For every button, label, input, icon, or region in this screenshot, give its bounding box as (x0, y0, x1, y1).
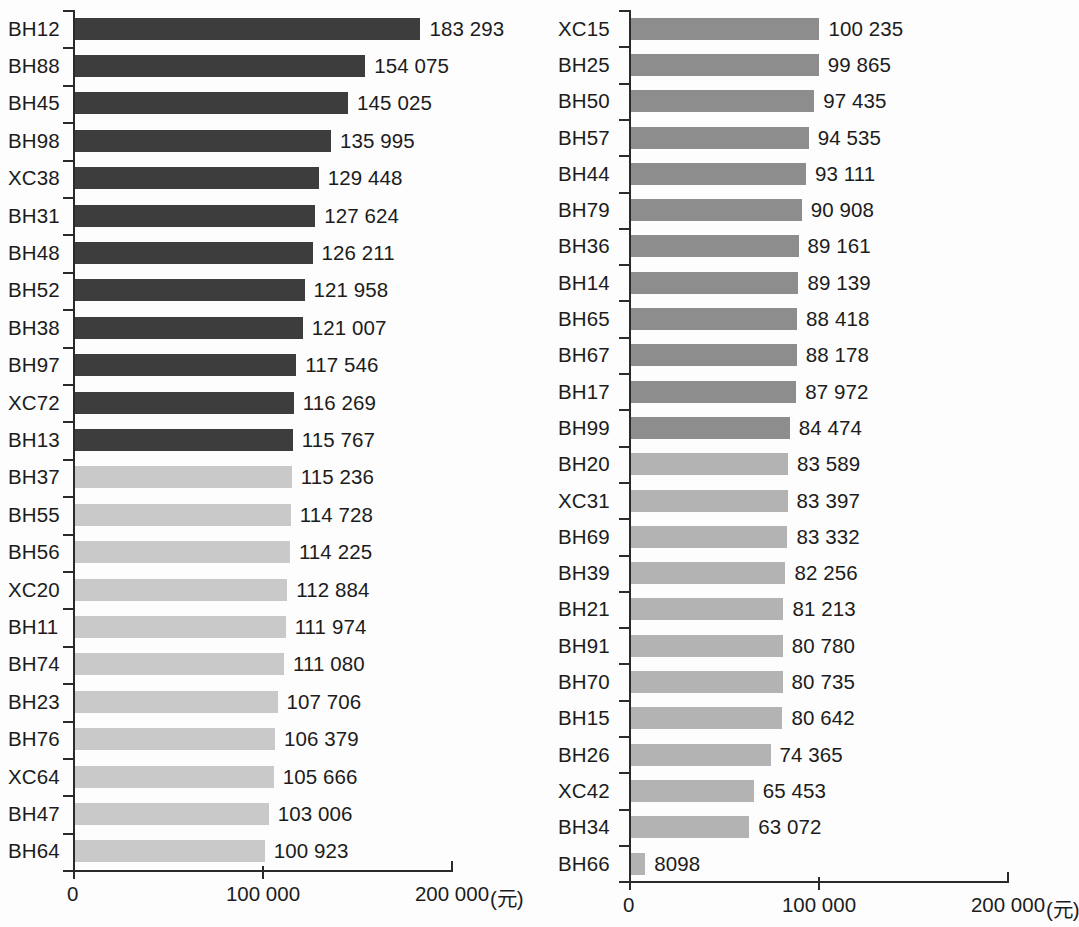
y-axis-line (629, 10, 631, 881)
category-label: BH44 (558, 162, 610, 186)
bar (630, 453, 788, 475)
bar (630, 816, 749, 838)
category-label: BH36 (558, 234, 610, 258)
category-label: BH17 (558, 380, 610, 404)
bar-value-label: 89 161 (808, 234, 871, 258)
bar (630, 381, 796, 403)
bar (74, 242, 313, 264)
category-label: BH12 (8, 17, 60, 41)
bar-value-label: 121 958 (314, 278, 389, 302)
x-axis-tick-label: 200 000 (971, 893, 1045, 917)
bar-value-label: 100 923 (274, 839, 349, 863)
bar-value-label: 115 767 (302, 428, 375, 452)
x-axis-unit-label: (元) (1046, 893, 1079, 923)
bar-row: BH88154 075 (0, 47, 540, 84)
bar (630, 163, 806, 185)
category-label: XC64 (8, 765, 60, 789)
bar-row: BH7990 908 (540, 192, 1079, 229)
bar-row: BH11111 974 (0, 608, 540, 645)
category-label: XC15 (558, 17, 610, 41)
bar (74, 728, 275, 750)
category-label: BH88 (8, 54, 60, 78)
bar (630, 490, 788, 512)
bar-row: BH3689 161 (540, 228, 1079, 265)
category-label: BH74 (8, 652, 60, 676)
bar-value-label: 112 884 (296, 578, 369, 602)
bar (74, 541, 290, 563)
bar (74, 616, 286, 638)
bar-value-label: 83 397 (797, 489, 860, 513)
bar-value-label: 8098 (654, 852, 700, 876)
category-label: BH66 (558, 852, 610, 876)
x-axis-tick (262, 866, 264, 879)
bar-value-label: 97 435 (823, 89, 886, 113)
category-label: BH57 (558, 126, 610, 150)
bar-value-label: 115 236 (301, 465, 374, 489)
bar-row: BH6983 332 (540, 518, 1079, 555)
x-axis-tick-label: 100 000 (226, 882, 300, 906)
bar (74, 317, 303, 339)
bar-row: BH13115 767 (0, 421, 540, 458)
category-label: BH50 (558, 89, 610, 113)
bar (74, 579, 287, 601)
category-label: BH25 (558, 53, 610, 77)
x-axis-tick-label: 200 000 (415, 882, 489, 906)
x-axis-tick (629, 877, 631, 890)
category-label: BH39 (558, 561, 610, 585)
bar-value-label: 126 211 (322, 241, 395, 265)
bar (630, 90, 814, 112)
bar-row: BH38121 007 (0, 309, 540, 346)
bar-value-label: 94 535 (818, 126, 881, 150)
x-axis-tick (818, 877, 820, 890)
bar-row: BH1787 972 (540, 373, 1079, 410)
category-label: BH98 (8, 129, 60, 153)
category-label: BH38 (8, 316, 60, 340)
bar-value-label: 145 025 (357, 91, 432, 115)
y-axis-line (73, 10, 75, 870)
bar (630, 127, 809, 149)
plot-area-right: XC15100 235BH2599 865BH5097 435BH5794 53… (540, 0, 1079, 927)
bar-value-label: 105 666 (283, 765, 358, 789)
bar (630, 235, 799, 257)
bar-value-label: 111 080 (293, 652, 365, 676)
bar-value-label: 127 624 (324, 204, 399, 228)
category-label: BH76 (8, 727, 60, 751)
bar-row: BH4493 111 (540, 155, 1079, 192)
bar-row: BH74111 080 (0, 646, 540, 683)
bar-row: BH98135 995 (0, 122, 540, 159)
bar-value-label: 87 972 (805, 380, 868, 404)
bar (630, 707, 782, 729)
plot-area-left: BH12183 293BH88154 075BH45145 025BH98135… (0, 0, 540, 927)
bar-value-label: 89 139 (807, 271, 870, 295)
category-label: BH48 (8, 241, 60, 265)
bar-value-label: 84 474 (799, 416, 862, 440)
bar-row: BH52121 958 (0, 272, 540, 309)
bar-row: XC72116 269 (0, 384, 540, 421)
bar-value-label: 90 908 (811, 198, 874, 222)
bar (74, 766, 274, 788)
category-label: BH11 (8, 615, 58, 639)
bar (630, 853, 645, 875)
category-label: BH56 (8, 540, 60, 564)
chart-panel-left: BH12183 293BH88154 075BH45145 025BH98135… (0, 0, 540, 927)
bar-value-label: 80 642 (791, 706, 854, 730)
bar (74, 466, 292, 488)
bar (74, 167, 319, 189)
bar-row: XC20112 884 (0, 571, 540, 608)
category-label: BH67 (558, 343, 610, 367)
bar (630, 526, 787, 548)
category-label: XC72 (8, 391, 60, 415)
bar-value-label: 114 728 (300, 503, 373, 527)
bar-value-label: 111 974 (295, 615, 367, 639)
bar-value-label: 80 735 (792, 670, 855, 694)
bar-row: BH56114 225 (0, 534, 540, 571)
bar-row: BH3463 072 (540, 809, 1079, 846)
bar-row: BH48126 211 (0, 234, 540, 271)
category-label: BH69 (558, 525, 610, 549)
bar (74, 803, 269, 825)
category-label: BH23 (8, 690, 60, 714)
bar-value-label: 63 072 (758, 815, 821, 839)
bar-value-label: 135 995 (340, 129, 415, 153)
bar (630, 417, 790, 439)
bar-row: BH2599 865 (540, 46, 1079, 83)
